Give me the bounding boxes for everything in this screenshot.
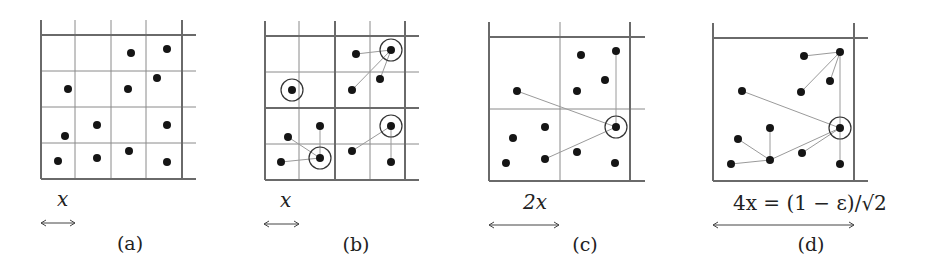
edge (380, 50, 391, 79)
panel-d: 4x = (1 − ε)/√2(d) (713, 23, 887, 255)
grid-clustering-figure: x(a)x(b)2x(c)4x = (1 − ε)/√2(d) (0, 0, 941, 278)
point (612, 123, 620, 131)
point (836, 160, 844, 168)
point (573, 148, 581, 156)
point (284, 133, 292, 141)
point (573, 87, 581, 95)
scale-label: 2x (522, 190, 547, 214)
edges (517, 51, 616, 159)
point (387, 46, 395, 54)
point (93, 121, 101, 129)
point (288, 86, 296, 94)
point (766, 124, 774, 132)
point (153, 74, 161, 82)
point (163, 158, 171, 166)
scale-label: 4x = (1 − ε)/√2 (733, 191, 887, 215)
panel-caption: (a) (117, 232, 143, 254)
point (93, 154, 101, 162)
point (348, 86, 356, 94)
edge (830, 52, 840, 81)
point (376, 75, 384, 83)
panel-caption: (d) (798, 233, 825, 255)
panel-caption: (c) (572, 233, 597, 255)
edge (356, 50, 391, 54)
point (316, 122, 324, 130)
point (798, 149, 806, 157)
edge (804, 52, 840, 56)
point (64, 85, 72, 93)
point (352, 50, 360, 58)
point (54, 157, 62, 165)
point (509, 134, 517, 142)
edge (802, 128, 840, 153)
point (577, 51, 585, 59)
point (387, 158, 395, 166)
grid (713, 23, 868, 181)
panel-b: x(b) (264, 21, 419, 255)
double-arrow-icon (489, 222, 559, 228)
point (836, 48, 844, 56)
point (734, 135, 742, 143)
panel-c: 2x(c) (489, 22, 645, 255)
point (502, 159, 510, 167)
point (612, 47, 620, 55)
edges (731, 52, 840, 164)
point (316, 154, 324, 162)
panel-a: x(a) (41, 20, 196, 254)
double-arrow-icon (264, 221, 299, 227)
edge (281, 158, 320, 162)
point (127, 49, 135, 57)
point (125, 147, 133, 155)
double-arrow-icon (41, 220, 75, 226)
point (541, 123, 549, 131)
point (601, 76, 609, 84)
point (348, 147, 356, 155)
point (826, 77, 834, 85)
point (766, 156, 774, 164)
point (797, 88, 805, 96)
point (163, 121, 171, 129)
point (727, 160, 735, 168)
point (513, 87, 521, 95)
double-arrow-icon (713, 222, 854, 228)
point (738, 87, 746, 95)
point (387, 122, 395, 130)
points (54, 45, 171, 166)
edge (731, 160, 770, 164)
point (836, 124, 844, 132)
point (163, 45, 171, 53)
edge (738, 139, 770, 160)
edge (742, 91, 840, 128)
edge (352, 126, 391, 151)
point (611, 159, 619, 167)
edge (545, 127, 616, 159)
point (61, 132, 69, 140)
point (277, 158, 285, 166)
grid (41, 20, 196, 179)
point (124, 85, 132, 93)
scale-label: x (57, 187, 68, 211)
panel-caption: (b) (343, 233, 370, 255)
point (541, 155, 549, 163)
grid (489, 22, 645, 181)
scale-label: x (280, 188, 291, 212)
point (800, 52, 808, 60)
